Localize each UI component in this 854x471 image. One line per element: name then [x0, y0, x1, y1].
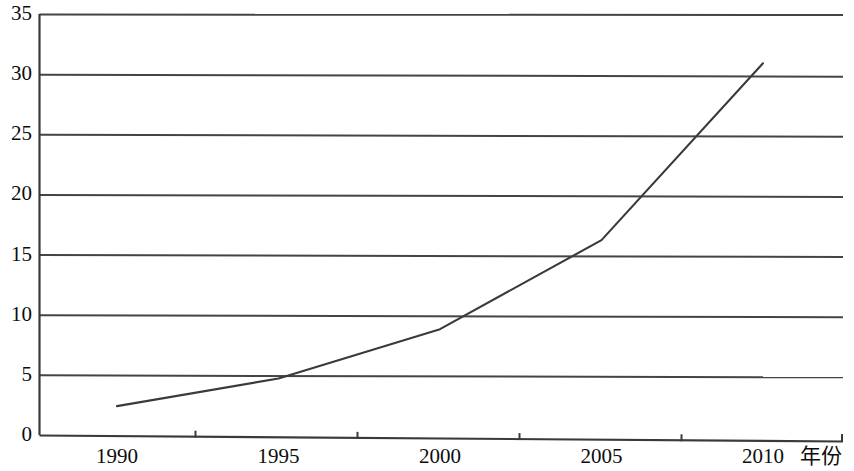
gridline [40, 15, 844, 16]
line-chart: 05101520253035 19901995200020052010 年份 [0, 0, 854, 471]
y-axis-tick-label: 15 [2, 244, 32, 265]
x-axis-tick-label: 2005 [562, 446, 642, 467]
x-axis-title: 年份 [800, 446, 842, 467]
y-axis-tick-label: 20 [2, 183, 32, 204]
y-axis-tick-label: 5 [2, 364, 32, 385]
y-axis-tick-label: 10 [2, 304, 32, 325]
chart-canvas [0, 0, 854, 471]
x-axis-tick-label: 1995 [239, 446, 319, 467]
y-axis-tick-label: 30 [2, 63, 32, 84]
y-axis-tick-label: 35 [2, 3, 32, 24]
y-axis-tick-label: 0 [2, 424, 32, 445]
x-axis-tick-label: 2010 [723, 446, 803, 467]
x-axis-tick-label: 1990 [77, 446, 157, 467]
y-axis-tick-label: 25 [2, 123, 32, 144]
chart-background [0, 0, 854, 471]
x-axis-tick-label: 2000 [400, 446, 480, 467]
